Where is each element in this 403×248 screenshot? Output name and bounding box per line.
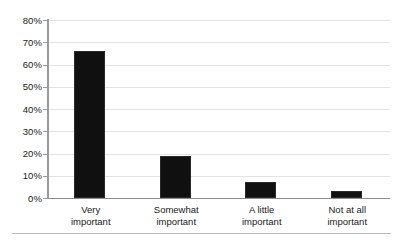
y-axis-label-60: 60%	[2, 60, 42, 70]
x-axis-label-a-little-important-line2: important	[219, 216, 305, 228]
y-axis-label-10: 10%	[2, 171, 42, 181]
x-axis-label-not-at-all-important: Not at all important	[305, 201, 391, 233]
x-axis-label-somewhat-important: Somewhat important	[134, 201, 220, 233]
y-tick-50	[43, 87, 47, 88]
y-axis-label-40: 40%	[2, 105, 42, 115]
x-axis-label-somewhat-important-line1: Somewhat	[154, 204, 199, 215]
bottom-divider-rule	[12, 233, 391, 234]
gridline-80	[48, 20, 390, 21]
bar-chart-figure: 80% 70% 60% 50% 40% 30% 20% 10% 0% Very …	[0, 0, 403, 248]
bar-a-little-important	[245, 182, 276, 198]
y-tick-40	[43, 109, 47, 110]
x-axis-line	[48, 198, 390, 200]
y-axis-label-20: 20%	[2, 149, 42, 159]
y-tick-80	[43, 20, 47, 21]
x-axis-label-very-important-line2: important	[48, 216, 134, 228]
y-tick-60	[43, 65, 47, 66]
y-axis-label-0: 0%	[2, 194, 42, 204]
y-axis-labels: 80% 70% 60% 50% 40% 30% 20% 10% 0%	[0, 0, 42, 248]
x-axis-label-not-at-all-important-line1: Not at all	[329, 204, 367, 215]
bar-very-important	[74, 51, 105, 198]
x-axis-labels: Very important Somewhat important A litt…	[48, 201, 390, 233]
plot-area	[48, 20, 390, 198]
gridline-70	[48, 42, 390, 43]
y-axis-line	[47, 19, 49, 199]
x-axis-label-not-at-all-important-line2: important	[305, 216, 391, 228]
y-axis-label-50: 50%	[2, 82, 42, 92]
x-axis-label-very-important-line1: Very	[81, 204, 100, 215]
y-tick-10	[43, 176, 47, 177]
bar-somewhat-important	[160, 156, 191, 198]
y-tick-0	[43, 198, 47, 199]
y-axis-label-80: 80%	[2, 16, 42, 26]
y-axis-label-70: 70%	[2, 38, 42, 48]
x-axis-label-very-important: Very important	[48, 201, 134, 233]
y-tick-30	[43, 131, 47, 132]
y-tick-20	[43, 154, 47, 155]
x-axis-label-a-little-important: A little important	[219, 201, 305, 233]
x-axis-label-somewhat-important-line2: important	[134, 216, 220, 228]
y-axis-label-30: 30%	[2, 127, 42, 137]
y-tick-70	[43, 42, 47, 43]
x-axis-label-a-little-important-line1: A little	[249, 204, 274, 215]
